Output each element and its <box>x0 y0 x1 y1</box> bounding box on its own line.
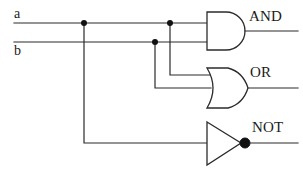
or-gate-body <box>207 68 248 108</box>
branch-wire-a-to-not <box>84 23 207 143</box>
branch-wire-a-to-or <box>170 23 211 75</box>
junction-dot-a-to-not <box>81 20 87 26</box>
inversion-bubble-icon <box>240 138 250 148</box>
junction-dot-b-to-or <box>152 39 158 45</box>
and-gate-body <box>207 12 245 50</box>
logic-gate-diagram: a b AND OR NOT <box>0 0 303 170</box>
logic-circuit-svg <box>0 0 303 170</box>
and-gate-label: AND <box>249 9 282 24</box>
not-gate-body <box>207 122 241 165</box>
or-gate-label: OR <box>250 65 271 80</box>
input-label-a: a <box>14 7 20 21</box>
not-gate-label: NOT <box>252 120 283 135</box>
branch-wire-b-to-or <box>155 42 211 88</box>
junction-dot-a-to-or <box>167 20 173 26</box>
input-label-b: b <box>14 44 21 58</box>
